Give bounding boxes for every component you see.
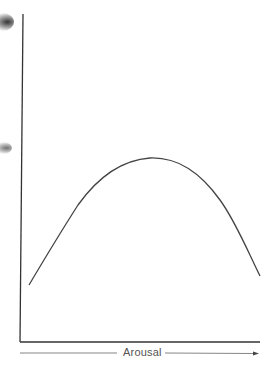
diagram-svg [0,0,272,371]
x-axis-label: Arousal [121,346,164,358]
right-arrow-icon [253,352,259,356]
inverted-u-diagram: Arousal [0,0,272,371]
inverted-u-curve [29,158,260,285]
x-label-arrow-right-segment [165,353,254,354]
y-axis [20,14,23,342]
